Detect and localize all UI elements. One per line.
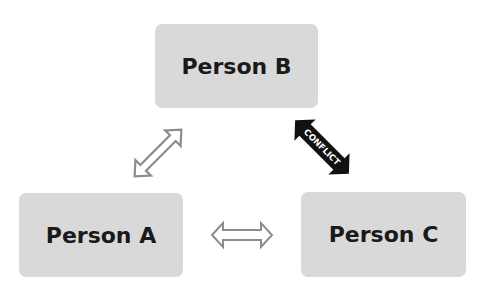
- conflict-label: CONFLICT: [302, 127, 342, 167]
- conflict-arrow-icon: CONFLICT: [285, 110, 360, 185]
- double-arrow-icon-ac: [212, 223, 272, 247]
- double-arrow-icon-ab: [127, 122, 189, 184]
